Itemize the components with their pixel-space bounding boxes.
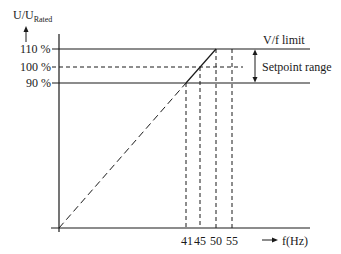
arrow-down-icon	[253, 77, 258, 83]
setpoint-range-label: Setpoint range	[262, 61, 332, 73]
x-axis-arrowhead-icon	[272, 238, 278, 243]
y-tick-90: 90 %	[26, 77, 51, 89]
y-axis-label-sub: Rated	[34, 15, 53, 24]
x-axis-label: f(Hz)	[282, 235, 308, 247]
x-tick-50: 50	[210, 235, 222, 247]
y-tick-110: 110 %	[20, 43, 51, 55]
y-axis-label: U/URated	[13, 9, 52, 24]
y-axis-label-main: U/U	[13, 8, 34, 22]
x-tick-45: 45	[194, 235, 206, 247]
arrow-up-icon	[253, 50, 258, 56]
x-tick-55: 55	[226, 235, 238, 247]
vf-limit-label: V/f limit	[263, 34, 305, 46]
vf-dashed-slope	[59, 83, 186, 228]
y-axis-arrowhead-icon	[24, 26, 29, 32]
x-tick-41: 41	[181, 235, 193, 247]
vf-solid-slope	[186, 49, 216, 83]
y-tick-100: 100 %	[20, 61, 51, 73]
